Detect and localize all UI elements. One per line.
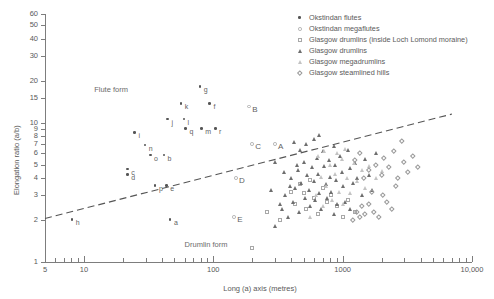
data-point <box>359 204 364 209</box>
data-point-label: a <box>174 219 178 226</box>
legend-item-label: Okstindan megaflutes <box>309 24 380 33</box>
data-point <box>154 184 157 187</box>
legend-item-label: Okstindan flutes <box>309 13 361 22</box>
data-point <box>363 211 368 216</box>
data-point <box>322 164 326 168</box>
data-point <box>341 184 345 188</box>
data-point <box>371 209 376 214</box>
data-point <box>328 175 332 179</box>
data-point <box>348 191 352 195</box>
chart-legend: Okstindan flutesOkstindan megaflutesGlas… <box>296 12 468 78</box>
data-point <box>348 207 352 211</box>
filled-triangle-icon <box>296 45 307 56</box>
data-point <box>305 173 309 177</box>
data-point-label: g <box>204 86 208 93</box>
data-point <box>382 155 387 160</box>
data-point <box>343 147 347 151</box>
data-point-label: f <box>213 103 215 110</box>
data-point-label: h <box>76 219 80 226</box>
data-point <box>273 224 277 228</box>
data-point <box>250 246 254 250</box>
open-square-icon <box>296 34 307 45</box>
data-point <box>199 85 202 88</box>
open-diamond-icon <box>296 67 307 78</box>
data-point <box>384 199 389 204</box>
data-point <box>133 131 136 134</box>
data-point <box>282 170 286 174</box>
data-point-label: E <box>237 216 242 224</box>
data-point <box>335 151 339 155</box>
data-point-label: C <box>255 143 261 151</box>
data-point <box>232 215 236 219</box>
data-point <box>250 142 254 146</box>
data-point <box>387 164 392 169</box>
data-point <box>366 201 371 206</box>
zone-label: Drumlin form <box>185 240 228 249</box>
data-point <box>340 170 344 174</box>
data-point <box>163 154 166 157</box>
data-point <box>214 127 217 130</box>
data-point <box>341 215 345 219</box>
data-point <box>357 214 362 219</box>
data-point <box>324 184 328 188</box>
data-point <box>289 190 293 194</box>
data-point <box>400 138 405 143</box>
legend-item-label: Glasgow drumlins (inside Loch Lomond mor… <box>309 35 468 44</box>
data-point <box>332 144 336 148</box>
data-point <box>288 184 292 188</box>
data-point-label: l <box>188 119 190 126</box>
data-point <box>297 210 301 214</box>
data-point <box>396 175 401 180</box>
legend-item-3[interactable]: Glasgow drumlins <box>296 45 468 56</box>
elongation-ratio-scatter-chart: 12345678910152030405060 510100100010,000… <box>0 0 494 299</box>
data-point <box>376 214 381 219</box>
data-point <box>360 168 364 172</box>
zone-label: Flute form <box>94 85 128 94</box>
data-point-label: o <box>154 155 158 162</box>
data-point <box>360 193 364 197</box>
data-point-label: q <box>189 128 193 135</box>
data-point <box>234 176 238 180</box>
data-point <box>367 173 371 177</box>
data-point <box>200 127 203 130</box>
data-point <box>283 193 287 197</box>
data-point <box>389 206 394 211</box>
legend-item-1[interactable]: Okstindan megaflutes <box>296 23 468 34</box>
data-point <box>341 202 345 206</box>
data-point <box>273 142 277 146</box>
legend-item-5[interactable]: Glasgow steamlined hills <box>296 67 468 78</box>
data-point <box>327 158 331 162</box>
legend-item-label: Glasgow drumlins <box>309 46 367 55</box>
data-point <box>325 196 329 200</box>
legend-item-2[interactable]: Glasgow drumlins (inside Loch Lomond mor… <box>296 34 468 45</box>
data-point <box>355 209 360 214</box>
data-point <box>169 218 172 221</box>
data-point-label: d <box>131 174 135 181</box>
legend-item-label: Glasgow steamlined hills <box>309 68 389 77</box>
legend-item-4[interactable]: Glasgow megadrumlins <box>296 56 468 67</box>
data-point-label: e <box>170 185 174 192</box>
data-point-label: A <box>278 143 283 151</box>
data-point <box>321 204 325 208</box>
data-point <box>299 181 303 185</box>
data-point-label: p <box>159 185 163 192</box>
data-point <box>361 175 366 180</box>
data-point-label: D <box>239 177 245 185</box>
data-point <box>405 170 410 175</box>
data-point <box>278 218 282 222</box>
legend-item-0[interactable]: Okstindan flutes <box>296 12 468 23</box>
data-point <box>313 198 317 202</box>
data-point <box>355 179 359 183</box>
data-point <box>357 151 362 156</box>
data-point <box>333 163 337 167</box>
data-point <box>329 190 333 194</box>
data-point <box>312 179 316 183</box>
data-point <box>374 151 378 155</box>
data-point <box>289 176 293 180</box>
data-point <box>330 198 334 202</box>
data-point <box>337 190 341 194</box>
data-point <box>126 168 129 171</box>
data-point <box>183 118 186 121</box>
data-point <box>71 218 74 221</box>
data-point <box>316 154 320 158</box>
